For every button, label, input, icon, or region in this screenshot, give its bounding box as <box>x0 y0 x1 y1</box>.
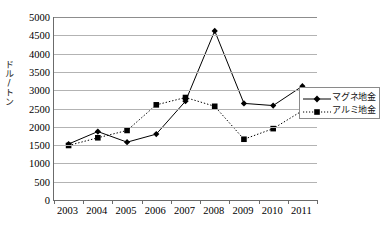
data-point-marker <box>124 128 130 134</box>
x-axis-tick-mark <box>54 200 55 204</box>
x-tick-label: 2006 <box>145 205 166 217</box>
x-tick-label: 2005 <box>116 205 137 217</box>
legend-label-aluminium: アルミ地金 <box>332 104 376 116</box>
chart-legend: マグネ地金 アルミ地金 <box>299 87 380 119</box>
x-axis-tick-mark <box>112 200 113 204</box>
data-point-marker <box>95 128 101 134</box>
gridline <box>54 90 317 91</box>
y-tick-label: 3500 <box>12 66 50 77</box>
gridline <box>54 163 317 164</box>
data-point-marker <box>241 136 247 142</box>
legend-item-aluminium[interactable]: アルミ地金 <box>302 103 376 116</box>
y-tick-label: 4500 <box>12 30 50 41</box>
plot-area <box>53 17 317 201</box>
gridline <box>54 109 317 110</box>
data-point-marker <box>241 100 247 106</box>
x-axis-tick-mark <box>259 200 260 204</box>
y-tick-label: 500 <box>12 176 50 187</box>
y-tick-label: 1000 <box>12 158 50 169</box>
x-tick-label: 2007 <box>174 205 195 217</box>
x-tick-label: 2004 <box>86 205 107 217</box>
data-point-marker <box>183 95 189 101</box>
legend-item-magnesium[interactable]: マグネ地金 <box>302 90 376 103</box>
x-tick-label: 2011 <box>291 205 312 217</box>
gridline <box>54 72 317 73</box>
y-tick-label: 5000 <box>12 12 50 23</box>
x-tick-label: 2008 <box>203 205 224 217</box>
legend-swatch-solid-diamond-icon <box>302 91 332 103</box>
data-point-marker <box>153 102 159 108</box>
x-axis-tick-mark <box>288 200 289 204</box>
y-tick-label: 4000 <box>12 48 50 59</box>
x-axis-tick-mark <box>229 200 230 204</box>
x-tick-label: 2010 <box>262 205 283 217</box>
x-tick-label: 2003 <box>57 205 78 217</box>
x-axis-tick-mark <box>142 200 143 204</box>
y-tick-label: 2500 <box>12 103 50 114</box>
gridline <box>54 182 317 183</box>
y-axis-tick-labels: 5000450040003500300025002000150010005000 <box>12 10 50 206</box>
x-axis-tick-mark <box>83 200 84 204</box>
gridline <box>54 54 317 55</box>
data-point-marker <box>95 135 101 141</box>
legend-swatch-dotted-square-icon <box>302 104 332 116</box>
y-tick-label: 2000 <box>12 121 50 132</box>
x-tick-label: 2009 <box>232 205 253 217</box>
x-axis-tick-mark <box>171 200 172 204</box>
line-chart: ドル/トン 5000450040003500300025002000150010… <box>0 0 386 234</box>
gridline <box>54 145 317 146</box>
x-axis-tick-mark <box>200 200 201 204</box>
y-tick-label: 1500 <box>12 140 50 151</box>
gridline <box>54 127 317 128</box>
y-tick-label: 3000 <box>12 85 50 96</box>
gridline <box>54 35 317 36</box>
y-tick-label: 0 <box>12 195 50 206</box>
data-point-marker <box>212 28 218 34</box>
gridline <box>54 17 317 18</box>
x-axis-tick-labels: 200320042005200620072008200920102011 <box>53 205 317 221</box>
legend-label-magnesium: マグネ地金 <box>332 91 376 103</box>
x-axis-tick-mark <box>317 200 318 204</box>
